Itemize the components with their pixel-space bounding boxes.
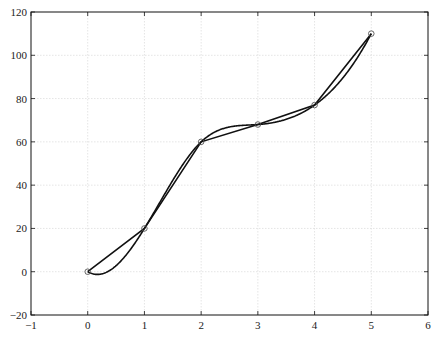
y-tick-label: 120 xyxy=(11,6,28,18)
y-tick-label: 80 xyxy=(16,93,28,105)
x-tick-labels: −10123456 xyxy=(25,319,431,331)
y-tick-label: 100 xyxy=(11,49,28,61)
data-markers xyxy=(85,31,374,275)
y-tick-label: 40 xyxy=(16,179,28,191)
y-tick-label: 60 xyxy=(16,136,28,148)
y-tick-label: 0 xyxy=(22,266,28,278)
x-tick-label: 6 xyxy=(425,319,431,331)
x-tick-label: 5 xyxy=(369,319,375,331)
x-tick-label: 4 xyxy=(312,319,318,331)
x-tick-label: 0 xyxy=(85,319,91,331)
y-tick-label: −20 xyxy=(10,309,28,321)
x-tick-label: 1 xyxy=(142,319,148,331)
x-tick-label: 3 xyxy=(255,319,261,331)
chart: −10123456 −20020406080100120 xyxy=(0,0,440,337)
plot-curves xyxy=(88,34,372,275)
y-tick-labels: −20020406080100120 xyxy=(10,6,28,321)
linear-interpolation-line xyxy=(88,34,372,272)
x-tick-label: 2 xyxy=(198,319,204,331)
y-tick-label: 20 xyxy=(16,222,28,234)
